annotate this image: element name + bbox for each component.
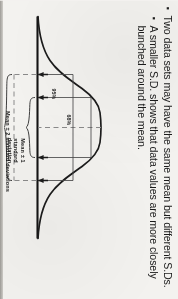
- bullet-text-2: A smaller S.D. shows that data values ar…: [135, 25, 160, 294]
- page-edge-shadow: [0, 0, 3, 299]
- label-68-percent: 68%: [66, 114, 72, 125]
- brace1-line-1: Mean ± 1: [20, 138, 26, 162]
- bullet-dot-icon: ▪: [148, 16, 161, 25]
- scanned-page: ▪ Two data sets may have the same mean b…: [0, 0, 178, 299]
- bullet-dot-icon: ▪: [161, 6, 174, 15]
- label-mean-plus-minus-2-sd: Mean ± 2 standard deviations: [4, 96, 11, 206]
- normal-distribution-figure: 68% 95% Mean ± 1 standard deviation Mean…: [4, 2, 104, 297]
- bullet-list: ▪ Two data sets may have the same mean b…: [135, 6, 174, 294]
- brace1-line-2: standard: [13, 138, 19, 162]
- bullet-text-1: Two data sets may have the same mean but…: [161, 15, 174, 294]
- brace-1-sd: [26, 97, 35, 157]
- list-item: ▪ Two data sets may have the same mean b…: [161, 6, 174, 294]
- label-95-percent: 95%: [51, 88, 57, 99]
- list-item: ▪ A smaller S.D. shows that data values …: [135, 16, 160, 294]
